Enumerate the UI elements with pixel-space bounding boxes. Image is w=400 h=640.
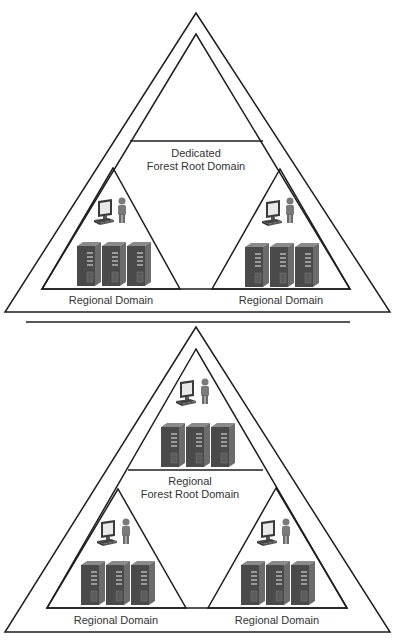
server-icon bbox=[291, 561, 315, 605]
workstation-icon bbox=[257, 520, 277, 546]
user-icon bbox=[201, 379, 209, 405]
server-icon bbox=[81, 561, 105, 605]
server-icon bbox=[131, 561, 155, 605]
server-icon bbox=[77, 242, 101, 286]
child-domain-right: Regional Domain bbox=[208, 488, 347, 626]
forest-root-diagrams: Dedicated Forest Root Domain Regional Do… bbox=[0, 0, 400, 640]
child-domain-right: Regional Domain bbox=[212, 169, 350, 306]
server-icon bbox=[270, 243, 294, 287]
root-domain-label-line2: Forest Root Domain bbox=[147, 160, 245, 172]
user-icon bbox=[118, 198, 126, 224]
child-domain-label: Regional Domain bbox=[69, 294, 153, 306]
server-icon bbox=[266, 561, 290, 605]
server-icon bbox=[295, 243, 319, 287]
child-domain-label: Regional Domain bbox=[235, 614, 319, 626]
root-domain-label-line1: Dedicated bbox=[171, 147, 221, 159]
child-domain-label: Regional Domain bbox=[74, 614, 158, 626]
workstation-icon bbox=[94, 199, 114, 225]
server-icon bbox=[106, 561, 130, 605]
root-domain-label-line1: Regional bbox=[168, 475, 211, 487]
diagram-dedicated-forest-root: Dedicated Forest Root Domain Regional Do… bbox=[5, 13, 390, 312]
root-domain-label-line2: Forest Root Domain bbox=[141, 488, 239, 500]
user-icon bbox=[122, 519, 130, 545]
server-icon bbox=[127, 242, 151, 286]
server-icon bbox=[211, 423, 235, 467]
child-domain-left: Regional Domain bbox=[42, 168, 180, 306]
workstation-icon bbox=[97, 520, 117, 546]
child-domain-label: Regional Domain bbox=[239, 294, 323, 306]
user-icon bbox=[282, 519, 290, 545]
user-icon bbox=[286, 198, 294, 224]
workstation-icon bbox=[176, 380, 196, 406]
workstation-icon bbox=[262, 200, 282, 226]
server-icon bbox=[186, 423, 210, 467]
server-icon bbox=[161, 423, 185, 467]
diagram-regional-forest-root: Regional Forest Root Domain Regional Dom… bbox=[5, 327, 390, 632]
server-icon bbox=[245, 243, 269, 287]
child-domain-left: Regional Domain bbox=[47, 489, 186, 626]
server-icon bbox=[102, 242, 126, 286]
server-icon bbox=[241, 561, 265, 605]
